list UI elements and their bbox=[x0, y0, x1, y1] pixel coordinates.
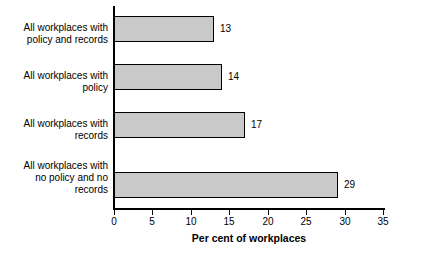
x-axis-title: Per cent of workplaces bbox=[113, 232, 385, 244]
bar-value-1: 14 bbox=[228, 71, 239, 83]
bar-2 bbox=[114, 112, 245, 138]
x-tick-1 bbox=[152, 210, 153, 215]
bar-3 bbox=[114, 172, 338, 198]
x-tick-4 bbox=[268, 210, 269, 215]
category-label-2-line-0: All workplaces with bbox=[4, 118, 108, 130]
x-tick-6 bbox=[345, 210, 346, 215]
category-label-0-line-0: All workplaces with bbox=[4, 22, 108, 34]
category-label-3-line-0: All workplaces with bbox=[4, 160, 108, 172]
x-tick-2 bbox=[191, 210, 192, 215]
x-tick-label-0: 0 bbox=[104, 216, 124, 228]
bar-0 bbox=[114, 16, 214, 42]
x-tick-label-5: 25 bbox=[296, 216, 316, 228]
x-tick-label-6: 30 bbox=[335, 216, 355, 228]
category-label-2: All workplaces with records bbox=[4, 118, 108, 142]
x-tick-label-1: 5 bbox=[142, 216, 162, 228]
bar-value-3: 29 bbox=[344, 179, 355, 191]
x-tick-label-4: 20 bbox=[258, 216, 278, 228]
category-label-0: All workplaces with policy and records bbox=[4, 22, 108, 46]
category-label-3-line-2: records bbox=[4, 184, 108, 196]
category-label-1-line-1: policy bbox=[4, 82, 108, 94]
category-label-3: All workplaces with no policy and no rec… bbox=[4, 160, 108, 196]
x-tick-label-7: 35 bbox=[373, 216, 393, 228]
category-label-2-line-1: records bbox=[4, 130, 108, 142]
bar-value-0: 13 bbox=[220, 23, 231, 35]
category-label-1-line-0: All workplaces with bbox=[4, 70, 108, 82]
bar-chart: All workplaces with policy and records A… bbox=[0, 0, 426, 253]
x-tick-3 bbox=[229, 210, 230, 215]
category-label-1: All workplaces with policy bbox=[4, 70, 108, 94]
x-tick-label-2: 10 bbox=[181, 216, 201, 228]
x-tick-label-3: 15 bbox=[219, 216, 239, 228]
x-tick-5 bbox=[306, 210, 307, 215]
x-tick-7 bbox=[383, 210, 384, 215]
category-label-3-line-1: no policy and no bbox=[4, 172, 108, 184]
bar-1 bbox=[114, 64, 222, 90]
bar-value-2: 17 bbox=[251, 119, 262, 131]
x-tick-0 bbox=[114, 210, 115, 215]
category-label-0-line-1: policy and records bbox=[4, 34, 108, 46]
